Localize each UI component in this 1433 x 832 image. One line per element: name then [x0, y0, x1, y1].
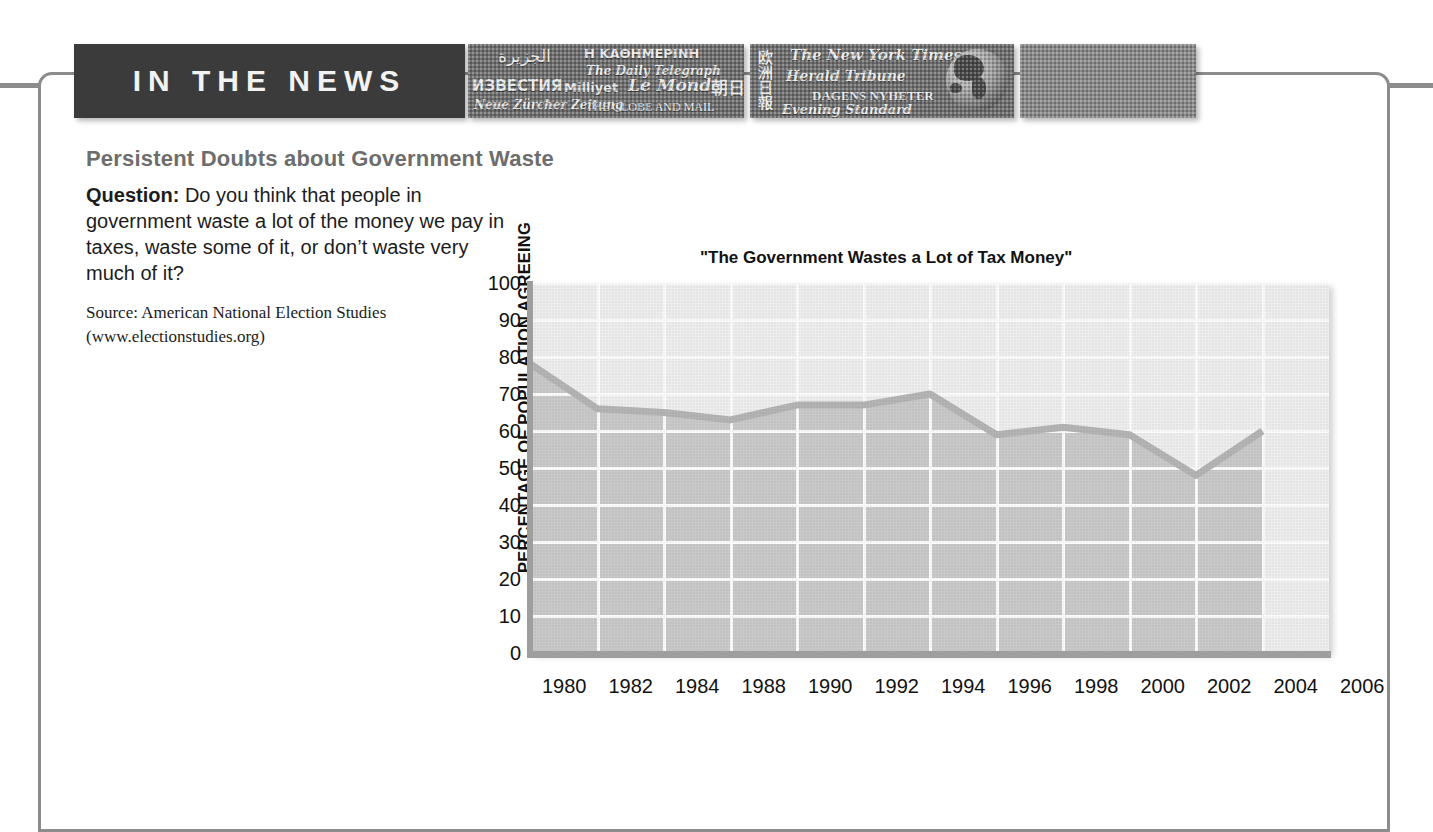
masthead-le-monde: Le Monde — [628, 75, 722, 95]
globe-icon — [946, 49, 1008, 111]
masthead-kathimerini: Η ΚΑΘΗΜΕΡΙΝΗ — [584, 46, 699, 61]
x-axis-spine — [527, 651, 1331, 658]
x-axis-tick-labels: 1980198219841988199019921994199619982000… — [531, 675, 1329, 705]
source-line-1: Source: American National Election Studi… — [86, 301, 486, 325]
masthead-al-jazeera: الجزيرة — [498, 46, 551, 67]
x-tick-1988: 1988 — [742, 675, 787, 698]
newspaper-collage-image-3 — [1020, 44, 1196, 118]
x-tick-1994: 1994 — [941, 675, 986, 698]
frame-stub-right — [1386, 83, 1433, 88]
masthead-evening-standard: Evening Standard — [782, 102, 912, 117]
x-tick-2000: 2000 — [1141, 675, 1186, 698]
x-tick-2006: 2006 — [1340, 675, 1385, 698]
y-tick-40: 40 — [499, 494, 521, 517]
y-tick-60: 60 — [499, 420, 521, 443]
data-series-line — [531, 283, 1329, 653]
masthead-herald-tribune: Herald Tribune — [786, 68, 906, 84]
x-tick-1992: 1992 — [875, 675, 920, 698]
masthead-ouzhou-ribao: 欧洲日報 — [754, 50, 775, 110]
x-tick-1996: 1996 — [1008, 675, 1053, 698]
y-tick-50: 50 — [499, 457, 521, 480]
x-tick-1998: 1998 — [1074, 675, 1119, 698]
masthead-milliyet: Milliyet — [564, 80, 618, 95]
masthead-asahi: 朝日 — [711, 74, 744, 99]
masthead-globe-and-mail: THE GLOBE AND MAIL — [586, 100, 714, 115]
newspaper-collage-image-2: 欧洲日報 The New York Times Herald Tribune D… — [750, 44, 1014, 118]
y-tick-0: 0 — [510, 642, 521, 665]
y-tick-70: 70 — [499, 383, 521, 406]
y-tick-20: 20 — [499, 568, 521, 591]
masthead-izvestia: ИЗВЕСТИЯ — [472, 77, 562, 95]
x-tick-2002: 2002 — [1207, 675, 1252, 698]
source-line-2: (www.electionstudies.org) — [86, 325, 486, 349]
y-tick-30: 30 — [499, 531, 521, 554]
plot-area — [531, 283, 1329, 653]
chart-title: "The Government Wastes a Lot of Tax Mone… — [700, 248, 1072, 268]
x-tick-1984: 1984 — [675, 675, 720, 698]
banner-title: IN THE NEWS — [74, 44, 465, 118]
page-title: Persistent Doubts about Government Waste — [86, 146, 554, 172]
x-tick-1980: 1980 — [542, 675, 587, 698]
y-axis-spine — [527, 281, 533, 655]
y-tick-90: 90 — [499, 309, 521, 332]
y-axis-tick-labels: 0102030405060708090100 — [475, 283, 521, 653]
y-tick-10: 10 — [499, 605, 521, 628]
x-tick-1982: 1982 — [609, 675, 654, 698]
source-note: Source: American National Election Studi… — [86, 301, 486, 349]
question-label: Question: — [86, 184, 179, 206]
y-tick-80: 80 — [499, 346, 521, 369]
x-tick-1990: 1990 — [808, 675, 853, 698]
chart: PERCENTAGE OF POPULATION AGREEING 010203… — [429, 283, 1389, 683]
question-paragraph: Question: Do you think that people in go… — [86, 182, 506, 286]
masthead-new-york-times: The New York Times — [790, 46, 962, 64]
x-tick-2004: 2004 — [1274, 675, 1319, 698]
in-the-news-banner: IN THE NEWS الجزيرة Η ΚΑΘΗΜΕΡΙΝΗ The Dai… — [74, 44, 1196, 118]
newspaper-collage-image-1: الجزيرة Η ΚΑΘΗΜΕΡΙΝΗ The Daily Telegraph… — [468, 44, 744, 118]
y-tick-100: 100 — [488, 272, 521, 295]
